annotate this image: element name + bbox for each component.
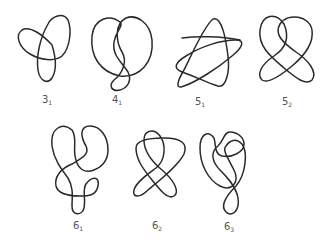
knot-index: 2 [288,101,292,108]
knot-label-4-1: 41 [112,95,122,106]
knot-6-2 [134,131,185,197]
knot-label-3-1: 31 [42,95,52,106]
knot-table-diagram [0,0,330,242]
knot-label-6-1: 61 [73,221,83,232]
knot-label-5-2: 52 [282,97,292,108]
knot-index: 1 [118,99,122,106]
knot-index: 1 [48,99,52,106]
knot-3-1 [18,16,70,82]
knot-index: 3 [230,226,234,233]
knot-6-3 [200,132,245,214]
knot-index: 2 [158,225,162,232]
knot-label-6-3: 63 [224,222,234,233]
knot-5-1 [176,19,242,87]
knot-6-1 [52,126,108,214]
knot-label-5-1: 51 [195,97,205,108]
knot-5-2 [260,16,314,82]
knot-label-6-2: 62 [152,221,162,232]
knot-index: 1 [201,101,205,108]
knot-index: 1 [79,225,83,232]
knot-4-1 [92,17,152,90]
